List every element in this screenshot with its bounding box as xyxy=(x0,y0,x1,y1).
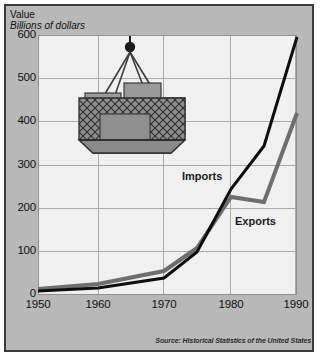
x-tick-1970: 1970 xyxy=(140,298,188,310)
x-tick-1980: 1980 xyxy=(207,298,255,310)
y-tick-400: 400 xyxy=(2,114,36,126)
y-tick-500: 500 xyxy=(2,71,36,83)
x-tick-1950: 1950 xyxy=(14,298,62,310)
y-tick-100: 100 xyxy=(2,244,36,256)
source-note: Source: Historical Statistics of the Uni… xyxy=(0,337,311,344)
x-tick-1960: 1960 xyxy=(74,298,122,310)
y-tick-600: 600 xyxy=(2,28,36,40)
chart-figure: Value Billions of dollars 600 500 400 30… xyxy=(0,0,321,364)
y-tick-300: 300 xyxy=(2,158,36,170)
x-tick-1990: 1990 xyxy=(272,298,320,310)
series-label-exports: Exports xyxy=(235,215,276,227)
series-label-imports: Imports xyxy=(182,170,222,182)
series-line-imports xyxy=(38,37,297,291)
series-line-exports xyxy=(38,113,297,289)
y-tick-200: 200 xyxy=(2,201,36,213)
